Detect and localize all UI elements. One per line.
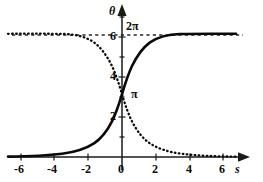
y-tick-label-4: 4 bbox=[110, 70, 116, 82]
x-tick-label-minus4: -4 bbox=[47, 163, 57, 175]
y-axis-arrowhead bbox=[117, 4, 126, 16]
x-axis-arrowhead bbox=[238, 152, 250, 162]
y-axis-label: θ bbox=[109, 5, 115, 17]
x-axis-label: s bbox=[235, 163, 240, 175]
y-tick-label-6: 6 bbox=[110, 30, 116, 42]
x-tick-label-minus6: -6 bbox=[14, 163, 24, 175]
x-tick-label-2: 2 bbox=[152, 163, 158, 175]
crossing-point-pi-label: π bbox=[131, 88, 138, 100]
asymptote-2pi-label: 2π bbox=[126, 20, 139, 32]
x-tick-label-4: 4 bbox=[186, 163, 192, 175]
x-tick-label-0: 0 bbox=[118, 163, 124, 175]
chart-figure: θ s 2π π 6 4 2 -6 -4 -2 0 2 4 6 bbox=[0, 0, 263, 182]
x-tick-label-minus2: -2 bbox=[81, 163, 91, 175]
y-tick-label-2: 2 bbox=[110, 110, 116, 122]
x-tick-label-6: 6 bbox=[219, 163, 225, 175]
